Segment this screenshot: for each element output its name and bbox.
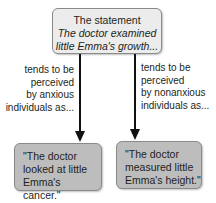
anxious-label-line: by anxious (0, 89, 74, 102)
anxious-label-line: perceived (0, 77, 74, 90)
statement-text-line2: little Emma's growth... (53, 40, 161, 53)
nonanxious-label-line: perceived (141, 75, 216, 88)
nonanxious-interpretation-line: measured little (125, 161, 201, 174)
nonanxious-interpretation-line: "The doctor (125, 148, 201, 161)
arrow-anxious-head-icon (75, 131, 85, 142)
anxious-label: tends to be perceived by anxious individ… (0, 64, 74, 114)
nonanxious-interpretation-box: "The doctor measured little Emma's heigh… (116, 141, 202, 189)
nonanxious-label-line: individuals as... (141, 100, 216, 113)
anxious-interpretation-line: Emma's cancer." (23, 176, 101, 202)
nonanxious-label-line: tends to be (141, 62, 216, 75)
anxious-label-line: individuals as... (0, 102, 74, 115)
arrow-anxious-shaft (79, 54, 81, 132)
arrow-nonanxious-head-icon (130, 129, 140, 140)
nonanxious-interpretation-line: Emma's height." (125, 174, 201, 187)
nonanxious-label-line: by nonanxious (141, 87, 216, 100)
anxious-interpretation-box: "The doctor looked at little Emma's canc… (14, 143, 102, 191)
anxious-label-line: tends to be (0, 64, 74, 77)
statement-box: The statement The doctor examined little… (52, 8, 162, 54)
anxious-interpretation-line: "The doctor (23, 150, 101, 163)
statement-text-line1: The doctor examined (53, 27, 161, 40)
anxious-interpretation-line: looked at little (23, 163, 101, 176)
arrow-nonanxious-shaft (134, 54, 136, 130)
nonanxious-label: tends to be perceived by nonanxious indi… (141, 62, 216, 112)
statement-heading: The statement (73, 14, 140, 26)
